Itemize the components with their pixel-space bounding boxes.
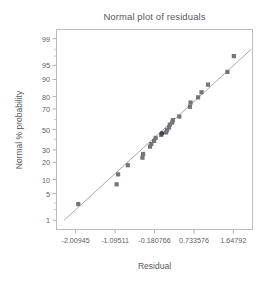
x-tick-label: -1.09511 (101, 236, 129, 245)
y-tick-label: 50 (42, 125, 50, 134)
y-tick-label: 70 (42, 105, 50, 114)
chart-canvas: Normal plot of residuals Normal % probab… (0, 0, 273, 290)
y-tick-label: 30 (42, 145, 50, 154)
y-tick-label: 20 (42, 158, 50, 167)
y-tick-label: 99 (42, 34, 50, 43)
y-tick-label: 10 (42, 175, 50, 184)
y-tick-label: 80 (42, 92, 50, 101)
y-tick-label: 1 (46, 216, 50, 225)
y-tick-label: 5 (46, 189, 50, 198)
y-tick-label: 95 (42, 61, 50, 70)
data-points (76, 54, 236, 206)
x-tick-label: -2.00945 (61, 236, 89, 245)
x-tick-label: 0.733576 (179, 236, 209, 245)
normal-fit-line (64, 49, 251, 220)
plot-graphics (0, 0, 273, 290)
y-tick-label: 90 (42, 75, 50, 84)
x-tick-label: 1.64792 (220, 236, 246, 245)
x-tick-label: -0.180766 (138, 236, 170, 245)
